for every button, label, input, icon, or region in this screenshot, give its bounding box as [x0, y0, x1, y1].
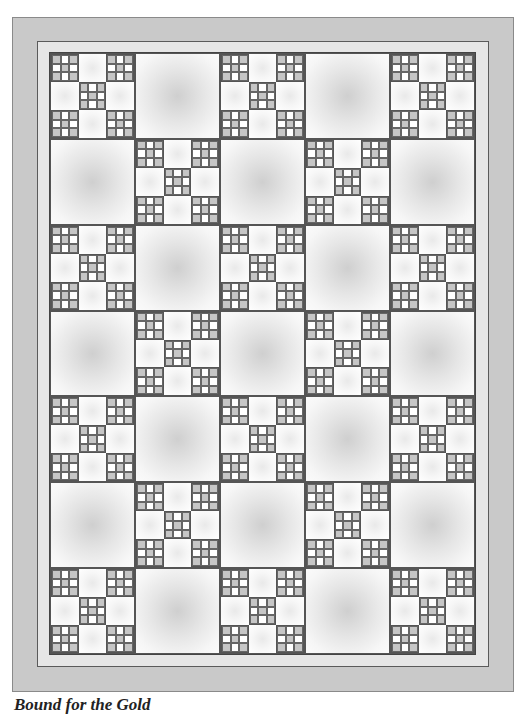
dark-cell [464, 570, 473, 579]
dark-cell [447, 227, 456, 236]
plain-square-unit [221, 425, 249, 453]
light-cell [239, 64, 248, 73]
dark-cell [61, 235, 70, 244]
light-cell [116, 72, 125, 81]
dark-cell [209, 141, 218, 150]
dark-cell [362, 484, 371, 493]
dark-cell [239, 570, 248, 579]
nine-patch-unit [51, 110, 79, 138]
dark-cell [447, 398, 456, 407]
dark-cell [69, 128, 78, 137]
light-cell [392, 407, 401, 416]
light-cell [409, 120, 418, 129]
light-cell [392, 579, 401, 588]
dark-cell [146, 493, 155, 502]
light-cell [447, 235, 456, 244]
dark-cell [250, 83, 259, 92]
light-cell [231, 111, 240, 120]
dark-cell [124, 244, 133, 253]
dark-cell [209, 540, 218, 549]
dark-cell [52, 626, 61, 635]
dark-cell [222, 587, 231, 596]
pieced-block [135, 482, 220, 568]
light-cell [316, 368, 325, 377]
nine-patch-unit [306, 539, 334, 567]
light-cell [335, 521, 344, 530]
plain-square-unit [361, 511, 389, 539]
dark-cell [352, 358, 361, 367]
light-cell [61, 300, 70, 309]
dark-cell [420, 426, 429, 435]
dark-cell [154, 197, 163, 206]
nine-patch-unit [276, 397, 304, 425]
light-cell [182, 177, 191, 186]
light-cell [371, 540, 380, 549]
dark-cell [124, 300, 133, 309]
light-cell [307, 149, 316, 158]
light-cell [69, 120, 78, 129]
nine-patch-unit [221, 453, 249, 481]
dark-cell [69, 55, 78, 64]
dark-cell [107, 472, 116, 481]
nine-patch-unit [419, 254, 447, 282]
light-cell [124, 635, 133, 644]
dark-cell [307, 158, 316, 167]
light-cell [343, 530, 352, 539]
light-cell [258, 598, 267, 607]
light-cell [316, 313, 325, 322]
light-cell [428, 272, 437, 281]
dark-cell [352, 169, 361, 178]
dark-cell [107, 587, 116, 596]
dark-cell [335, 341, 344, 350]
dark-cell [456, 235, 465, 244]
nine-patch-unit [106, 569, 134, 597]
plain-block [50, 139, 135, 225]
dark-cell [464, 227, 473, 236]
dark-cell [201, 493, 210, 502]
light-cell [239, 291, 248, 300]
dark-cell [165, 169, 174, 178]
dark-cell [294, 416, 303, 425]
dark-cell [137, 197, 146, 206]
dark-cell [231, 407, 240, 416]
dark-cell [250, 100, 259, 109]
light-cell [61, 570, 70, 579]
dark-cell [294, 111, 303, 120]
light-cell [316, 330, 325, 339]
light-cell [401, 643, 410, 652]
light-cell [456, 416, 465, 425]
light-cell [222, 120, 231, 129]
light-cell [371, 141, 380, 150]
nine-patch-unit [221, 226, 249, 254]
dark-cell [447, 128, 456, 137]
dark-cell [294, 626, 303, 635]
light-cell [392, 463, 401, 472]
plain-square-unit [79, 54, 107, 82]
pieced-block [50, 53, 135, 139]
dark-cell [447, 643, 456, 652]
light-cell [420, 92, 429, 101]
plain-square-unit [306, 511, 334, 539]
light-cell [258, 272, 267, 281]
light-cell [209, 549, 218, 558]
dark-cell [192, 313, 201, 322]
plain-square-unit [51, 82, 79, 110]
light-cell [362, 321, 371, 330]
dark-cell [409, 283, 418, 292]
light-cell [316, 540, 325, 549]
light-cell [371, 330, 380, 339]
nine-patch-unit [221, 569, 249, 597]
plain-square-unit [79, 453, 107, 481]
light-cell [165, 177, 174, 186]
light-cell [154, 549, 163, 558]
dark-cell [239, 55, 248, 64]
plain-block [305, 568, 390, 654]
light-cell [97, 92, 106, 101]
dark-cell [447, 570, 456, 579]
plain-square-unit [361, 168, 389, 196]
dark-cell [61, 579, 70, 588]
nine-patch-unit [136, 140, 164, 168]
dark-cell [456, 463, 465, 472]
dark-cell [409, 227, 418, 236]
light-cell [209, 321, 218, 330]
